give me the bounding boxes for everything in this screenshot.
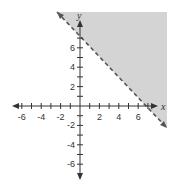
y-tick-label: 6	[70, 43, 75, 53]
y-tick-label: 4	[70, 62, 75, 72]
x-axis-arrow-left-icon	[12, 103, 19, 109]
y-tick-label: -6	[67, 159, 75, 169]
y-tick-label: 2	[70, 82, 75, 92]
y-tick-label: -4	[67, 140, 75, 150]
x-tick-label: -4	[37, 112, 45, 122]
y-tick-label: -2	[67, 120, 75, 130]
x-tick-label: 2	[97, 112, 102, 122]
y-axis-arrow-down-icon	[77, 173, 83, 180]
x-tick-label: 4	[116, 112, 121, 122]
coordinate-plane: -6 -4 -2 2 4 6 6 4 2 -2 -4 -6 x y	[0, 0, 174, 185]
y-axis-label: y	[76, 10, 82, 21]
x-tick-label: -2	[57, 112, 65, 122]
x-tick-label: -6	[18, 112, 26, 122]
x-axis-label: x	[160, 101, 166, 112]
x-tick-label: 6	[136, 112, 141, 122]
